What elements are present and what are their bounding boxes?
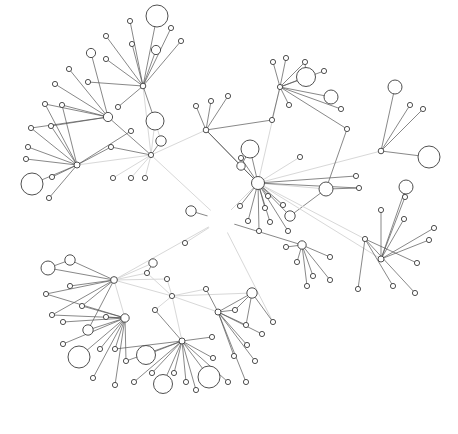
graph-node[interactable] [225,93,230,98]
graph-node[interactable] [129,41,134,46]
graph-node[interactable] [238,155,243,160]
graph-node[interactable] [152,307,157,312]
graph-node-hub[interactable] [140,83,146,89]
graph-node[interactable] [286,102,291,107]
graph-node-hub[interactable] [74,162,80,168]
graph-node[interactable] [131,379,136,384]
graph-node[interactable] [137,346,156,365]
graph-node[interactable] [123,358,128,363]
graph-node[interactable] [48,123,53,128]
graph-node[interactable] [186,206,196,216]
graph-node[interactable] [85,79,90,84]
graph-node[interactable] [270,59,275,64]
graph-node[interactable] [66,66,71,71]
graph-node[interactable] [327,277,332,282]
graph-node-hub[interactable] [252,177,265,190]
graph-node[interactable] [319,182,333,196]
graph-node-hub[interactable] [215,309,221,315]
graph-node-hub[interactable] [179,338,185,344]
graph-node[interactable] [388,80,402,94]
graph-node[interactable] [60,341,65,346]
graph-node[interactable] [41,261,55,275]
graph-node[interactable] [110,175,115,180]
graph-node[interactable] [267,219,272,224]
graph-node[interactable] [297,154,302,159]
graph-node[interactable] [310,273,315,278]
graph-node[interactable] [208,98,213,103]
graph-node[interactable] [280,202,285,207]
graph-node[interactable] [209,334,214,339]
graph-node[interactable] [103,314,108,319]
graph-node-hub[interactable] [277,84,282,89]
graph-node[interactable] [144,270,149,275]
graph-node[interactable] [283,244,288,249]
graph-node[interactable] [142,175,147,180]
graph-node[interactable] [156,136,166,146]
graph-node[interactable] [390,283,395,288]
graph-node[interactable] [232,307,237,312]
graph-node[interactable] [378,207,383,212]
graph-node[interactable] [103,112,112,121]
graph-node[interactable] [304,283,309,288]
graph-node[interactable] [127,18,132,23]
graph-node[interactable] [112,346,117,351]
graph-node[interactable] [115,104,120,109]
graph-node[interactable] [21,173,43,195]
graph-node[interactable] [97,346,102,351]
graph-node-hub[interactable] [378,148,384,154]
graph-node[interactable] [43,291,48,296]
graph-node[interactable] [321,68,326,73]
graph-node[interactable] [90,375,95,380]
graph-node[interactable] [401,216,406,221]
graph-node[interactable] [146,5,168,27]
graph-node[interactable] [237,203,242,208]
graph-node[interactable] [108,144,113,149]
graph-node[interactable] [338,106,343,111]
graph-node[interactable] [68,346,90,368]
graph-node[interactable] [193,387,198,392]
graph-node[interactable] [49,312,54,317]
graph-node-root[interactable] [207,206,235,234]
graph-node[interactable] [52,81,57,86]
graph-node[interactable] [128,175,133,180]
graph-node-hub[interactable] [148,152,153,157]
graph-node[interactable] [294,259,299,264]
graph-node[interactable] [355,286,360,291]
graph-node[interactable] [79,303,84,308]
graph-node[interactable] [42,101,47,106]
graph-node[interactable] [65,255,75,265]
graph-node[interactable] [28,125,33,130]
graph-node[interactable] [431,225,436,230]
graph-node[interactable] [285,211,295,221]
graph-node[interactable] [252,358,257,363]
graph-node[interactable] [407,102,412,107]
graph-node[interactable] [225,379,230,384]
graph-node[interactable] [49,174,54,179]
graph-node[interactable] [344,126,349,131]
graph-node[interactable] [353,173,358,178]
graph-node[interactable] [231,353,236,358]
graph-node[interactable] [302,59,307,64]
graph-node[interactable] [25,144,30,149]
graph-node[interactable] [356,185,361,190]
graph-node[interactable] [183,379,188,384]
graph-node[interactable] [420,106,425,111]
graph-node[interactable] [171,370,176,375]
graph-node[interactable] [198,366,220,388]
graph-node[interactable] [262,205,267,210]
graph-node[interactable] [297,68,316,87]
graph-node-hub[interactable] [111,277,118,284]
graph-node[interactable] [168,25,173,30]
graph-node[interactable] [151,45,160,54]
graph-node-hub[interactable] [203,127,209,133]
graph-node[interactable] [241,140,259,158]
graph-node-hub[interactable] [298,241,306,249]
graph-node[interactable] [243,379,248,384]
graph-node[interactable] [193,103,198,108]
graph-node[interactable] [256,228,261,233]
graph-node[interactable] [245,218,250,223]
graph-node[interactable] [265,193,270,198]
graph-node[interactable] [112,382,117,387]
graph-node-hub[interactable] [378,256,384,262]
graph-node[interactable] [285,228,290,233]
